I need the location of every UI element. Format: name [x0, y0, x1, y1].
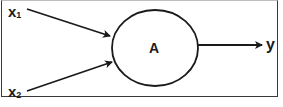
edge-x1-to-a [27, 9, 110, 36]
node-label-a: A [149, 40, 159, 56]
input-label-x2: x2 [8, 83, 21, 100]
diagram-canvas [0, 0, 283, 107]
input-label-x1: x1 [8, 3, 21, 20]
caption-cut-off [100, 100, 190, 107]
edge-x2-to-a [27, 62, 112, 91]
output-label-y: y [266, 36, 275, 54]
